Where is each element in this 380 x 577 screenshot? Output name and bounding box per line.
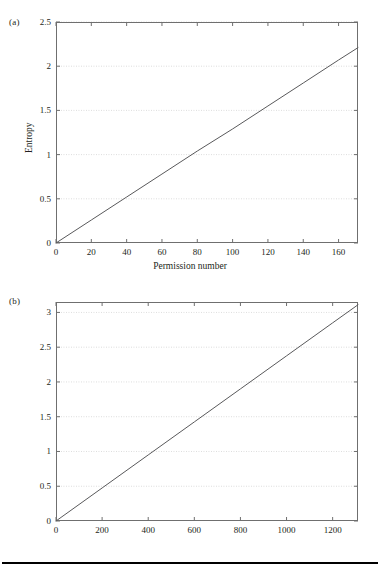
x-tick-label: 0 — [54, 247, 59, 257]
series-line-entropy — [56, 305, 358, 521]
x-tick-label: 400 — [141, 525, 155, 535]
figure-entropy-plots: (a) Entropy Permission number 00.511.522… — [0, 0, 380, 577]
y-tick-label: 3 — [47, 307, 52, 317]
x-tick-label: 40 — [122, 247, 131, 257]
x-tick-label: 120 — [261, 247, 275, 257]
chart-panel-b: (b) Entropy Number of APIs 00.511.522.53… — [0, 280, 380, 545]
x-tick-label: 60 — [157, 247, 166, 257]
series-line-entropy — [56, 48, 358, 243]
x-tick-label: 20 — [87, 247, 96, 257]
x-tick-label: 0 — [54, 525, 59, 535]
x-tick-label: 100 — [226, 247, 240, 257]
x-tick-label: 140 — [297, 247, 311, 257]
y-tick-label: 1 — [47, 150, 52, 160]
panel-a-y-axis-title: Entropy — [24, 122, 34, 153]
panel-a-x-axis-title: Permission number — [0, 261, 380, 271]
chart-panel-a: (a) Entropy Permission number 00.511.522… — [0, 0, 380, 285]
y-tick-label: 2 — [47, 377, 52, 387]
y-tick-label: 0 — [47, 516, 52, 526]
x-tick-label: 800 — [234, 525, 248, 535]
y-tick-label: 0 — [47, 238, 52, 248]
y-tick-label: 0.5 — [40, 194, 51, 204]
y-tick-label: 2.5 — [40, 17, 51, 27]
panel-b-plot-area — [0, 280, 380, 545]
y-tick-label: 1.5 — [40, 412, 51, 422]
x-tick-label: 1200 — [324, 525, 342, 535]
panel-a-plot-area — [0, 0, 380, 285]
figure-footer-rule — [2, 562, 378, 564]
y-tick-label: 1.5 — [40, 105, 51, 115]
y-tick-label: 0.5 — [40, 481, 51, 491]
y-tick-label: 2.5 — [40, 342, 51, 352]
x-tick-label: 1000 — [278, 525, 296, 535]
y-tick-label: 1 — [47, 446, 52, 456]
y-tick-label: 2 — [47, 61, 52, 71]
x-tick-label: 200 — [95, 525, 109, 535]
x-tick-label: 80 — [193, 247, 202, 257]
x-tick-label: 600 — [188, 525, 202, 535]
x-tick-label: 160 — [332, 247, 346, 257]
